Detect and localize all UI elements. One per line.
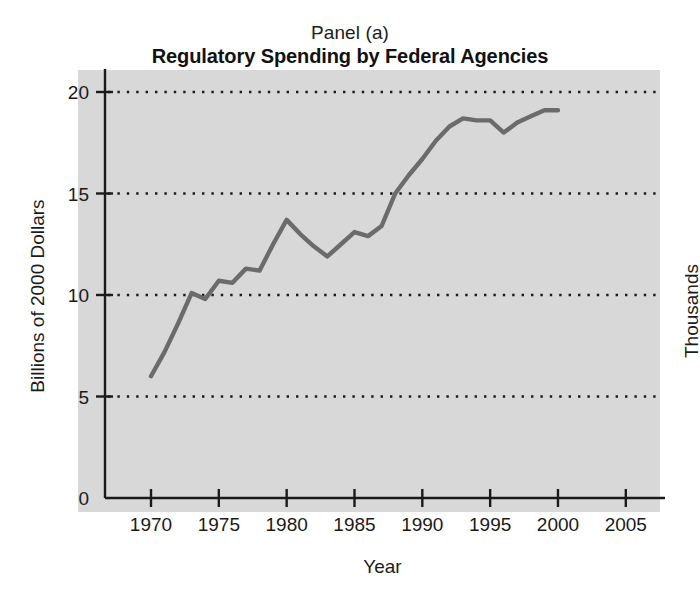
x-tick-label: 2000 [537,514,579,535]
figure-container: Panel (a) Regulatory Spending by Federal… [0,0,700,604]
x-tick-label: 1970 [130,514,172,535]
y-tick-label: 5 [78,387,89,408]
y-tick-label: 15 [68,184,89,205]
x-tick-label: 1990 [401,514,443,535]
chart-plot: 19701975198019851990199520002005 0510152… [0,0,700,604]
plot-background [78,70,660,512]
y-tick-label: 10 [68,285,89,306]
y-tick-label: 20 [68,82,89,103]
x-tick-label: 1980 [266,514,308,535]
x-tick-label: 1995 [469,514,511,535]
y-tick-label: 0 [78,488,89,509]
x-tick-label: 1975 [198,514,240,535]
x-tick-label: 1985 [333,514,375,535]
x-tick-label: 2005 [605,514,647,535]
